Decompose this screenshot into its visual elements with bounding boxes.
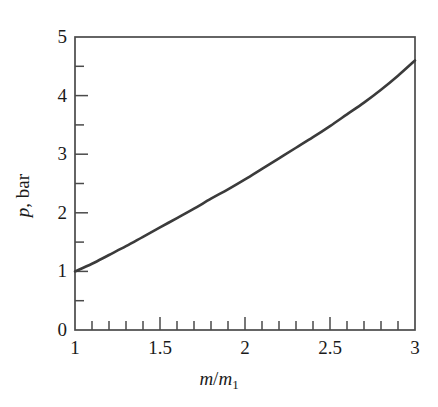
x-axis-tick-label: 2.5 bbox=[306, 338, 354, 357]
data-series-line bbox=[75, 60, 415, 271]
x-axis-label: m/m1 bbox=[0, 368, 438, 393]
y-axis-tick-label: 0 bbox=[41, 320, 67, 339]
y-axis-tick-label: 4 bbox=[41, 86, 67, 105]
y-axis-label: p, bar bbox=[8, 150, 38, 240]
y-axis-tick-label: 5 bbox=[41, 27, 67, 46]
x-axis-label-numerator: m bbox=[199, 368, 213, 389]
y-axis-label-symbol: p bbox=[13, 207, 34, 217]
y-axis-tick-label: 1 bbox=[41, 261, 67, 280]
y-axis-tick-label: 3 bbox=[41, 144, 67, 163]
plot-frame bbox=[75, 37, 415, 330]
x-axis-tick-label: 1.5 bbox=[136, 338, 184, 357]
chart-figure: p, bar m/m1 01234511.522.53 bbox=[0, 0, 438, 407]
y-axis-tick-label: 2 bbox=[41, 203, 67, 222]
y-axis-label-rest: , bar bbox=[13, 173, 34, 207]
x-axis-tick-label: 1 bbox=[51, 338, 99, 357]
x-axis-tick-label: 2 bbox=[221, 338, 269, 357]
x-axis-tick-label: 3 bbox=[391, 338, 438, 357]
x-axis-label-subscript: 1 bbox=[232, 377, 239, 392]
x-axis-label-denominator: m bbox=[218, 368, 232, 389]
